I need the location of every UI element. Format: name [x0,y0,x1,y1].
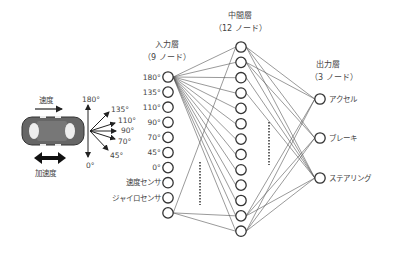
output-node [315,94,325,104]
output-node-label: ブレーキ [329,133,357,143]
ray-label-135: 135° [111,105,129,114]
input-node [163,178,173,188]
input-node-label: ジャイロセンサ [112,194,161,203]
input-node-label: 速度センサ [126,177,161,187]
input-node-label: 110° [143,103,161,112]
input-node [163,147,173,157]
input-layer-title: 入力層 [155,39,179,49]
hidden-layer-title: 中間層 [228,10,252,20]
input-node-label: 90° [148,118,162,127]
output-layer-subtitle: （3 ノード） [310,73,358,82]
input-node [163,87,173,97]
hidden-node [236,42,246,52]
hidden-node [236,73,246,83]
ray-label-180: 180° [82,95,100,104]
hidden-node [236,88,246,98]
ray-label-0: 0° [86,161,95,170]
input-node [163,162,173,172]
output-layer-title: 出力層 [316,59,340,69]
input-node [163,117,173,127]
output-node-label: ステアリング [329,173,372,183]
input-node [163,72,173,82]
hidden-node [236,165,246,175]
input-node-label: 180° [143,73,161,82]
ray-label-90: 90° [121,126,135,135]
acceleration-arrow-icon [34,152,66,164]
output-node [315,133,325,143]
hidden-node [236,211,246,221]
hidden-node [236,195,246,205]
nodes [163,42,325,237]
input-node [163,132,173,142]
input-node-label: 135° [143,88,161,97]
ray-label-70: 70° [118,137,132,146]
input-node-label: 45° [148,148,162,157]
input-node [163,208,173,218]
hidden-node [236,149,246,159]
car-icon [22,116,84,146]
input-layer-subtitle: （9 ノード） [143,53,191,62]
ray-label-45: 45° [110,151,124,160]
hidden-node [236,57,246,67]
hidden-node [236,119,246,129]
hidden-node [236,134,246,144]
hidden-node [236,103,246,113]
input-node [163,102,173,112]
neural-network-diagram: 速度 加速度 180° 0° 135° 110° 90° 70° 45° 入力層… [0,0,397,254]
input-node-label: 70° [148,133,162,142]
output-labels: アクセルブレーキステアリング [329,95,372,183]
acceleration-label: 加速度 [35,168,57,178]
input-node [163,193,173,203]
input-node-label: 0° [152,163,161,172]
hidden-layer-subtitle: （12 ノード） [214,24,267,33]
hidden-node [236,226,246,236]
output-node-label: アクセル [329,95,358,104]
hidden-node [236,180,246,190]
output-node [315,173,325,183]
ray-label-110: 110° [118,116,136,125]
speed-label: 速度 [39,95,54,105]
